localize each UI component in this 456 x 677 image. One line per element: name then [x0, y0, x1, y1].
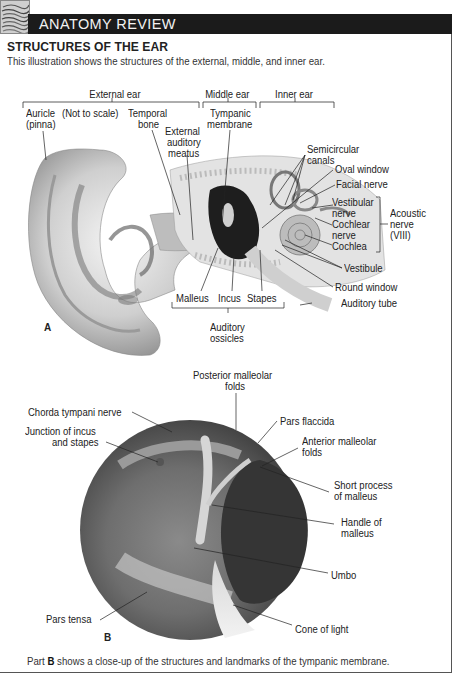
label-auditory-tube: Auditory tube [341, 298, 397, 309]
group-label-inner-ear: Inner ear [275, 89, 313, 100]
label-short-process-2: of malleus [334, 491, 377, 502]
label-auricle-1: Auricle [26, 108, 55, 119]
label-facial-nerve: Facial nerve [336, 179, 388, 190]
label-stapes: Stapes [247, 293, 277, 304]
caption-bold-letter: B [47, 655, 54, 667]
label-anterior-malleolar-2: folds [302, 447, 322, 458]
label-handle-of-malleus-2: malleus [341, 528, 374, 539]
label-chorda-tympani: Chorda tympani nerve [28, 407, 121, 418]
label-malleus: Malleus [176, 293, 209, 304]
label-vestibular-nerve-2: nerve [332, 208, 356, 219]
label-posterior-malleolar-1: Posterior malleolar [193, 370, 272, 381]
label-pars-tensa: Pars tensa [46, 614, 91, 625]
label-cochlear-nerve-2: nerve [332, 230, 356, 241]
group-label-auditory-ossicles-1: Auditory [210, 322, 245, 333]
label-temporal-bone-2: bone [138, 119, 159, 130]
label-anterior-malleolar-1: Anterior malleolar [302, 436, 376, 447]
label-cochlear-nerve-1: Cochlear [332, 219, 370, 230]
label-not-to-scale: (Not to scale) [62, 108, 118, 119]
figure-a-letter: A [44, 322, 51, 333]
group-label-acoustic-nerve-3: (VIII) [390, 230, 411, 241]
label-external-meatus-2: auditory [167, 137, 201, 148]
caption-prefix: Part [27, 655, 47, 667]
group-label-acoustic-nerve-2: nerve [390, 219, 414, 230]
label-auricle-2: (pinna) [26, 119, 56, 130]
label-junction-2: and stapes [52, 437, 98, 448]
figure-b-letter: B [104, 632, 111, 643]
label-umbo: Umbo [331, 570, 356, 581]
label-semicircular-canals-2: canals [307, 155, 334, 166]
label-cone-of-light: Cone of light [295, 624, 348, 635]
label-round-window: Round window [335, 282, 397, 293]
label-incus: Incus [218, 293, 241, 304]
label-tympanic-membrane-1: Tympanic [210, 108, 251, 119]
label-tympanic-membrane-2: membrane [207, 119, 252, 130]
group-label-middle-ear: Middle ear [205, 89, 249, 100]
label-handle-of-malleus-1: Handle of [341, 517, 382, 528]
caption-suffix: shows a close-up of the structures and l… [54, 655, 389, 667]
group-label-acoustic-nerve-1: Acoustic [390, 208, 426, 219]
group-label-auditory-ossicles-2: ossicles [210, 333, 244, 344]
label-vestibule: Vestibule [344, 263, 383, 274]
tympanic-membrane-drawing [80, 420, 308, 640]
label-oval-window: Oval window [335, 164, 389, 175]
label-temporal-bone-1: Temporal [128, 108, 167, 119]
group-label-external-ear: External ear [89, 89, 140, 100]
label-vestibular-nerve-1: Vestibular [332, 197, 374, 208]
label-junction-1: Junction of incus [25, 426, 96, 437]
label-external-meatus-3: meatus [168, 148, 199, 159]
label-short-process-1: Short process [334, 480, 393, 491]
label-external-meatus-1: External [165, 126, 200, 137]
label-semicircular-canals-1: Semicircular [307, 144, 359, 155]
label-pars-flaccida: Pars flaccida [280, 416, 334, 427]
label-posterior-malleolar-2: folds [225, 381, 245, 392]
figure-caption: Part B shows a close-up of the structure… [27, 655, 389, 667]
label-cochlea: Cochlea [332, 241, 367, 252]
